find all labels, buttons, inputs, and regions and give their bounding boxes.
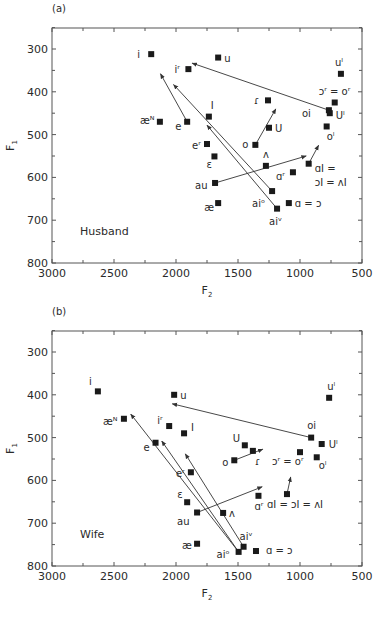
point-label: U bbox=[275, 123, 282, 134]
trajectory-arrow bbox=[161, 74, 188, 122]
trajectory-arrow bbox=[185, 454, 243, 547]
point-label: Uˡ bbox=[336, 110, 345, 121]
x-axis-label: F2 bbox=[202, 587, 213, 602]
point-label: uˡ bbox=[335, 57, 343, 68]
data-point bbox=[242, 442, 248, 448]
point-label: uˡ bbox=[327, 381, 335, 392]
point-label: aiᵛ bbox=[269, 216, 282, 227]
x-tick-label: 1500 bbox=[224, 570, 252, 583]
point-label: ɾ bbox=[254, 95, 259, 106]
data-point bbox=[121, 416, 127, 422]
data-point bbox=[265, 97, 271, 103]
point-label: ɾ bbox=[255, 456, 260, 467]
data-point bbox=[231, 457, 237, 463]
data-point bbox=[297, 449, 303, 455]
point-label: ɔI = ʌI bbox=[315, 177, 347, 188]
data-point bbox=[290, 169, 296, 175]
data-point bbox=[308, 435, 314, 441]
y-tick-label: 700 bbox=[27, 517, 48, 530]
point-label: oi bbox=[307, 420, 316, 431]
point-label: o bbox=[222, 457, 228, 468]
point-label: ɑʳ bbox=[254, 501, 263, 512]
data-point bbox=[148, 51, 154, 57]
data-point bbox=[266, 125, 272, 131]
point-label: ɑʳ bbox=[276, 171, 285, 182]
panel-b-wife: (b)3004005006007008003000250020001500100… bbox=[0, 300, 387, 617]
x-axis-label: F2 bbox=[202, 284, 213, 299]
data-point bbox=[215, 55, 221, 61]
data-point bbox=[324, 123, 330, 129]
data-point bbox=[184, 499, 190, 505]
y-tick-label: 500 bbox=[27, 432, 48, 445]
y-tick-label: 600 bbox=[27, 474, 48, 487]
chart-b: (b)3004005006007008003000250020001500100… bbox=[0, 300, 387, 617]
point-label: aiᵒ bbox=[252, 198, 265, 209]
data-point bbox=[194, 510, 200, 516]
point-label: e bbox=[144, 442, 150, 453]
point-label: ɛ bbox=[206, 159, 211, 170]
point-label: ɑ = ɔ bbox=[266, 545, 293, 556]
data-point bbox=[269, 188, 275, 194]
point-label: ʌ bbox=[229, 508, 235, 519]
data-point bbox=[206, 114, 212, 120]
panel-a-husband: (a)3004005006007008003000250020001500100… bbox=[0, 0, 387, 300]
x-tick-label: 500 bbox=[352, 267, 373, 280]
data-point bbox=[185, 66, 191, 72]
point-label: ɔʳ = oʳ bbox=[272, 456, 304, 467]
data-point bbox=[319, 441, 325, 447]
point-label: oi bbox=[302, 108, 311, 119]
point-label: I bbox=[191, 422, 194, 433]
data-point bbox=[153, 440, 159, 446]
data-point bbox=[236, 549, 242, 555]
point-label: ɛ bbox=[177, 489, 182, 500]
data-point bbox=[215, 200, 221, 206]
trajectory-arrow bbox=[255, 109, 275, 145]
y-axis-label: F1 bbox=[4, 140, 19, 151]
data-point bbox=[188, 469, 194, 475]
data-point bbox=[306, 161, 312, 167]
data-point bbox=[274, 206, 280, 212]
y-tick-label: 400 bbox=[27, 389, 48, 402]
point-label: oˡ bbox=[319, 460, 327, 471]
data-point bbox=[255, 493, 261, 499]
y-tick-label: 400 bbox=[27, 86, 48, 99]
x-tick-label: 2000 bbox=[162, 570, 190, 583]
y-tick-label: 300 bbox=[27, 346, 48, 359]
point-label: oˡ bbox=[327, 131, 335, 142]
point-label: au bbox=[177, 516, 189, 527]
point-label: ɔʳ = oʳ bbox=[319, 86, 351, 97]
point-label: Uˡ bbox=[329, 439, 338, 450]
data-point bbox=[95, 388, 101, 394]
data-point bbox=[184, 119, 190, 125]
point-label: e bbox=[175, 121, 181, 132]
data-point bbox=[241, 544, 247, 550]
point-label: ɑI = ɔI = ʌI bbox=[267, 499, 323, 510]
x-tick-label: 1000 bbox=[286, 267, 314, 280]
point-label: i bbox=[89, 376, 92, 387]
x-tick-label: 3000 bbox=[38, 570, 66, 583]
y-axis-label: F1 bbox=[4, 443, 19, 454]
point-label: i bbox=[137, 49, 140, 60]
data-point bbox=[212, 180, 218, 186]
data-point bbox=[220, 510, 226, 516]
data-point bbox=[211, 153, 217, 159]
data-point bbox=[253, 548, 259, 554]
point-label: eʳ bbox=[176, 468, 185, 479]
data-point bbox=[332, 100, 338, 106]
x-tick-label: 2000 bbox=[162, 267, 190, 280]
chart-a: (a)3004005006007008003000250020001500100… bbox=[0, 0, 387, 300]
point-label: iʳ bbox=[174, 64, 180, 75]
y-tick-label: 500 bbox=[27, 129, 48, 142]
data-point bbox=[286, 200, 292, 206]
x-tick-label: 1000 bbox=[286, 570, 314, 583]
point-label: ɑI = bbox=[315, 163, 336, 174]
point-label: ɑ = ɔ bbox=[295, 198, 322, 209]
point-label: I bbox=[211, 100, 214, 111]
data-point bbox=[166, 423, 172, 429]
point-label: au bbox=[195, 180, 207, 191]
point-label: eʳ bbox=[192, 140, 201, 151]
speaker-annotation: Husband bbox=[80, 225, 129, 238]
x-tick-label: 500 bbox=[352, 570, 373, 583]
data-point bbox=[327, 110, 333, 116]
data-point bbox=[171, 392, 177, 398]
